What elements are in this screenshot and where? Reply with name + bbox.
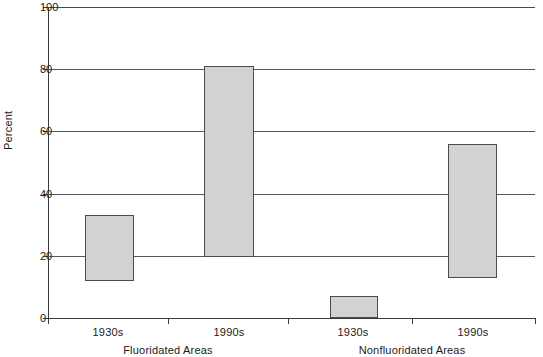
y-axis-title: Percent <box>2 111 14 150</box>
x-tick-mark <box>48 318 49 324</box>
x-tick-label: 1990s <box>214 326 245 338</box>
bar <box>85 215 134 280</box>
x-tick-mark <box>535 318 536 324</box>
bar-chart: Percent 100806040200 1930s1990s1930s1990… <box>0 0 543 357</box>
bar <box>330 296 378 318</box>
x-tick-mark <box>168 318 169 324</box>
x-tick-label: 1990s <box>458 326 489 338</box>
plot-area <box>48 7 535 318</box>
x-tick-label: 1930s <box>338 326 369 338</box>
gridline-80 <box>48 69 535 70</box>
x-axis-group-label: Fluoridated Areas <box>123 344 213 356</box>
gridline-0 <box>48 318 535 319</box>
x-axis-group-label: Nonfluoridated Areas <box>359 344 466 356</box>
bar <box>448 144 497 278</box>
x-tick-mark <box>412 318 413 324</box>
x-tick-mark <box>288 318 289 324</box>
bar <box>204 66 254 257</box>
gridline-100 <box>48 7 535 8</box>
x-tick-label: 1930s <box>93 326 124 338</box>
gridline-60 <box>48 131 535 132</box>
